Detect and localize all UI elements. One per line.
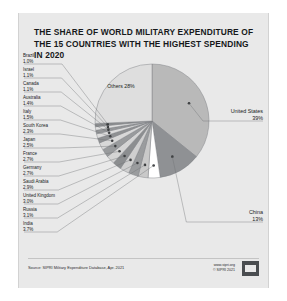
callout-label: China (249, 209, 263, 216)
callout-germany: Germany 2.7% (23, 165, 42, 177)
infographic-card: THE SHARE OF WORLD MILITARY EXPENDITURE … (18, 13, 269, 288)
sipri-logo-mark (245, 265, 256, 272)
callout-value: 1.1% (23, 73, 34, 79)
callout-label: United States (231, 108, 263, 115)
sipri-logo (242, 261, 259, 276)
callout-brazil: Brazil 1.0% (23, 53, 34, 65)
pie-chart (94, 63, 210, 179)
callout-value: 1.0% (23, 59, 34, 65)
callout-value: 1.1% (23, 87, 39, 93)
callout-china: China 13% (249, 209, 263, 224)
callout-israel: Israel 1.1% (23, 67, 34, 79)
callout-value: 1.5% (23, 115, 33, 121)
callout-japan: Japan 2.5% (23, 137, 35, 149)
callout-value: 3.7% (23, 227, 33, 233)
callout-value: 2.7% (23, 171, 42, 177)
pie-slice-others (95, 64, 152, 123)
credit-block: www.sipri.org © SIPRI 2021 (213, 263, 235, 273)
source-note: Source: SIPRI Military Expenditure Datab… (28, 265, 124, 270)
callout-value: 3.1% (23, 213, 37, 219)
callout-russia: Russia 3.1% (23, 207, 37, 219)
footer: Source: SIPRI Military Expenditure Datab… (18, 258, 269, 288)
callout-canada: Canada 1.1% (23, 81, 39, 93)
others-name: Others (107, 83, 123, 89)
callout-value: 13% (249, 216, 263, 223)
callout-value: 39% (231, 115, 263, 122)
callout-value: 2.3% (23, 129, 48, 135)
callout-saudi-arabia: Saudi Arabia 2.9% (23, 179, 49, 191)
chart-area: Others 28% Brazil 1.0% Israel 1.1% Canad… (18, 51, 269, 256)
callout-united-states: United States 39% (231, 108, 263, 123)
pie-svg (94, 63, 210, 179)
slice-label-others: Others 28% (98, 83, 144, 90)
callout-india: India 3.7% (23, 221, 33, 233)
callout-value: 3.0% (23, 199, 55, 205)
pie-slice-group (95, 64, 209, 178)
callout-south-korea: South Korea 2.3% (23, 123, 48, 135)
callout-france: France 2.7% (23, 151, 37, 163)
callout-value: 2.5% (23, 143, 35, 149)
footer-divider (28, 258, 259, 259)
others-value: 28% (124, 83, 134, 89)
callout-australia: Australia 1.4% (23, 95, 41, 107)
callout-italy: Italy 1.5% (23, 109, 33, 121)
callout-value: 2.7% (23, 157, 37, 163)
callout-united-kingdom: United Kingdom 3.0% (23, 193, 55, 205)
callout-value: 2.9% (23, 185, 49, 191)
copyright-note: © SIPRI 2021 (213, 268, 235, 273)
callout-value: 1.4% (23, 101, 41, 107)
